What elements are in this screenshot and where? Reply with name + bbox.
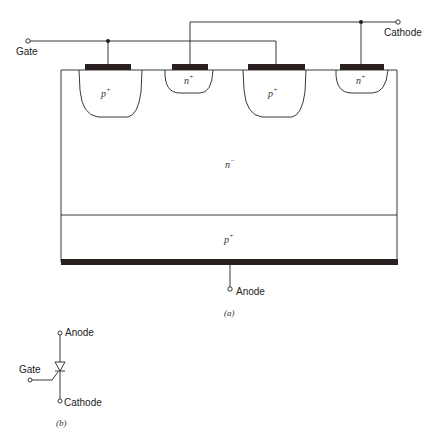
gate-contact-right xyxy=(248,64,305,70)
gate-label: Gate xyxy=(16,46,38,57)
caption-b: (b) xyxy=(56,418,67,428)
diode-triangle-icon xyxy=(55,362,65,371)
anode-terminal xyxy=(228,287,232,291)
symbol-cathode-terminal xyxy=(58,399,62,403)
gate-junction-dot xyxy=(106,39,110,43)
gate-contact-left xyxy=(85,64,131,70)
cross-section xyxy=(30,22,397,287)
gate-terminal xyxy=(26,39,30,43)
cathode-contact-left xyxy=(172,64,208,70)
cathode-junction-dot xyxy=(359,20,363,24)
region-p-plus-right: p+ xyxy=(267,86,278,99)
region-p-plus-left: p+ xyxy=(100,86,111,99)
symbol-gate-terminal xyxy=(28,378,32,382)
caption-a: (a) xyxy=(224,308,235,318)
symbol-anode-label: Anode xyxy=(65,327,94,338)
anode-label: Anode xyxy=(236,286,265,297)
region-n-plus-right: n+ xyxy=(356,73,366,86)
region-n-plus-left: n+ xyxy=(184,73,194,86)
symbol-cathode-label: Cathode xyxy=(64,397,102,408)
region-p-plus-substrate: p+ xyxy=(223,232,234,245)
thyristor-diagram: Gate Cathode Anode p+ n+ p+ n+ n− p+ (a)… xyxy=(0,0,439,442)
anode-metal xyxy=(61,259,398,265)
region-n-minus: n− xyxy=(225,157,235,170)
symbol-gate-label: Gate xyxy=(19,364,41,375)
cathode-contact-right xyxy=(340,64,384,70)
symbol-anode-terminal xyxy=(58,331,62,335)
cathode-label: Cathode xyxy=(384,27,422,38)
cathode-terminal xyxy=(396,20,400,24)
